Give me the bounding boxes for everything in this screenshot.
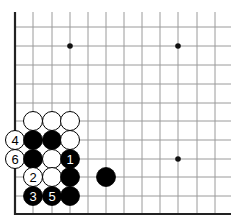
white-stone-icon <box>43 168 62 187</box>
move-number-label: 4 <box>11 133 18 148</box>
white-stone-icon <box>61 131 80 150</box>
white-stone <box>43 112 62 131</box>
move-number-label: 5 <box>48 189 55 204</box>
black-stone-icon <box>61 168 80 187</box>
move-number-label: 6 <box>11 152 18 167</box>
board-canvas: 461235 <box>0 0 234 222</box>
black-stone <box>61 187 80 206</box>
white-stone <box>61 131 80 150</box>
black-stone-icon <box>97 168 116 187</box>
black-stone <box>97 168 116 187</box>
star-point-icon <box>175 43 181 49</box>
star-point-icon <box>175 156 181 162</box>
black-stone-move-3: 3 <box>24 187 43 206</box>
black-stone-icon <box>24 131 43 150</box>
move-number-label: 3 <box>29 189 36 204</box>
black-stone-move-5: 5 <box>43 187 62 206</box>
go-board-diagram: 461235 <box>0 0 234 222</box>
white-stone-move-2: 2 <box>24 168 43 187</box>
white-stone-icon <box>61 112 80 131</box>
white-stone <box>43 168 62 187</box>
white-stone <box>43 150 62 169</box>
black-stone-icon <box>61 187 80 206</box>
black-stone <box>24 150 43 169</box>
white-stone-icon <box>43 150 62 169</box>
black-stone-move-1: 1 <box>61 150 80 169</box>
move-number-label: 1 <box>66 152 73 167</box>
white-stone <box>61 112 80 131</box>
white-stone-move-4: 4 <box>6 131 25 150</box>
star-point-icon <box>67 43 73 49</box>
black-stone-icon <box>43 131 62 150</box>
black-stone-icon <box>24 150 43 169</box>
black-stone <box>43 131 62 150</box>
white-stone-icon <box>24 112 43 131</box>
white-stone <box>24 112 43 131</box>
black-stone <box>61 168 80 187</box>
black-stone <box>24 131 43 150</box>
move-number-label: 2 <box>29 170 36 185</box>
white-stone-icon <box>43 112 62 131</box>
white-stone-move-6: 6 <box>6 150 25 169</box>
